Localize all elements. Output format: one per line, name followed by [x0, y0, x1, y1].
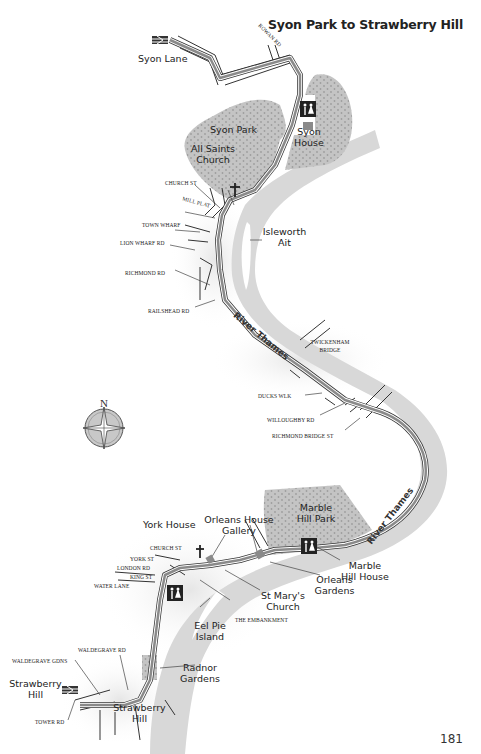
label-strawberry-hill-station: Strawberry Hill — [8, 678, 63, 700]
road-twickenham-bridge: Twickenham Bridge — [304, 338, 356, 354]
label-all-saints-church: All Saints Church — [188, 143, 238, 165]
label-st-marys-church: St Mary's Church — [258, 590, 308, 612]
page-number: 181 — [440, 732, 463, 746]
road-york-st: York St — [130, 556, 154, 562]
label-marble-hill-park: Marble Hill Park — [296, 502, 336, 524]
toilets-icon — [301, 538, 317, 554]
label-orleans-house-gallery: Orleans House Gallery — [204, 514, 274, 536]
label-syon-house: Syon House — [294, 126, 324, 148]
road-railshead-rd: Railshead Rd — [148, 308, 189, 314]
label-syon-park: Syon Park — [210, 124, 257, 135]
road-tower-rd: Tower Rd — [35, 719, 64, 725]
label-isleworth-ait: Isleworth Ait — [262, 226, 307, 248]
rail-station-icon — [152, 36, 168, 44]
road-london-rd: London Rd — [117, 565, 150, 571]
road-waldegrave-gdns: Waldegrave Gdns — [12, 658, 67, 664]
road-richmond-bridge-st: Richmond Bridge St — [272, 433, 333, 439]
page-title: Syon Park to Strawberry Hill — [268, 17, 463, 32]
road-church-st-twickenham: Church St — [150, 545, 182, 551]
rail-station-icon — [62, 686, 78, 694]
label-radnor-gardens: Radnor Gardens — [175, 662, 225, 684]
road-the-embankment: The Embankment — [235, 617, 288, 623]
road-waldegrave-rd: Waldegrave Rd — [78, 647, 126, 653]
label-eel-pie-island: Eel Pie Island — [190, 620, 230, 642]
road-ducks-wlk: Ducks Wlk — [258, 393, 291, 399]
compass-north-label: N — [100, 397, 108, 409]
road-water-lane: Water Lane — [94, 583, 129, 589]
road-willoughby-rd: Willoughby Rd — [267, 417, 314, 423]
road-church-st-isleworth: Church St — [165, 180, 197, 186]
route-map — [0, 0, 481, 754]
road-richmond-rd: Richmond Rd — [125, 270, 165, 276]
toilets-icon — [167, 585, 183, 601]
road-town-wharf: Town Wharf — [142, 222, 181, 228]
compass-rose-icon — [83, 407, 125, 449]
label-york-house: York House — [143, 519, 196, 530]
toilets-icon — [300, 101, 316, 117]
label-orleans-gardens: Orleans Gardens — [312, 574, 357, 596]
road-king-st: King St — [130, 574, 152, 580]
label-strawberry-hill: Strawberry Hill — [112, 702, 167, 724]
label-syon-lane: Syon Lane — [138, 53, 188, 64]
road-lion-wharf-rd: Lion Wharf Rd — [120, 240, 165, 246]
